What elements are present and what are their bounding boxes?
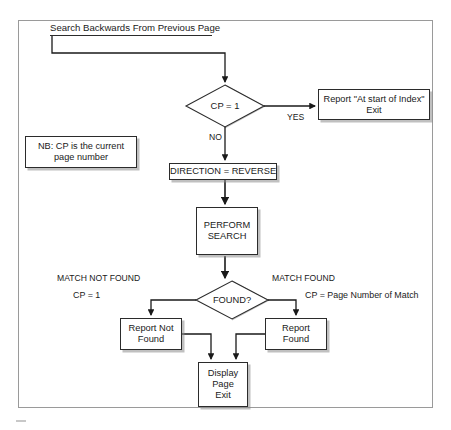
node-found-question: FOUND? [196, 281, 268, 319]
figure-canvas: Search Backwards From Previous Page CP =… [0, 0, 451, 430]
node-perform-search-line2: SEARCH [208, 231, 247, 242]
node-report-at-start-of-index: Report "At start of Index" Exit [318, 89, 430, 120]
start-underline [50, 35, 212, 36]
node-report-found: Report Found [265, 318, 327, 350]
node-report-found-line1: Report [282, 323, 310, 334]
node-perform-search: PERFORM SEARCH [196, 207, 258, 255]
note-line1: NB: CP is the current [38, 141, 124, 152]
node-cp-equals-1-label: CP = 1 [211, 100, 240, 111]
node-display-line1: Display [208, 368, 238, 379]
node-report-not-found-line1: Report Not [129, 323, 174, 334]
edge-label-cp-equals-1: CP = 1 [73, 291, 100, 301]
node-direction-reverse-label: DIRECTION = REVERSE [170, 166, 276, 177]
node-cp-equals-1: CP = 1 [186, 85, 264, 127]
node-display-line2: Page [212, 379, 234, 390]
edge-label-match-found: MATCH FOUND [272, 274, 335, 283]
node-found-question-label: FOUND? [213, 295, 251, 306]
node-note-cp-definition: NB: CP is the current page number [25, 136, 137, 168]
node-direction-reverse: DIRECTION = REVERSE [169, 163, 277, 180]
edge-label-cp-page-number-of-match: CP = Page Number of Match [305, 291, 419, 301]
node-perform-search-line1: PERFORM [204, 220, 251, 231]
note-line2: page number [54, 152, 108, 163]
node-report-not-found: Report Not Found [120, 318, 182, 350]
edge-label-match-not-found: MATCH NOT FOUND [57, 274, 140, 283]
node-start-header: Search Backwards From Previous Page [50, 22, 220, 33]
caption-marker [16, 420, 26, 422]
edge-label-no: NO [209, 133, 222, 142]
node-report-found-line2: Found [283, 334, 309, 345]
node-start-label: Search Backwards From Previous Page [50, 22, 220, 33]
edge-label-yes: YES [287, 113, 304, 122]
node-report-at-start-line1: Report "At start of Index" [324, 94, 425, 105]
node-report-not-found-line2: Found [138, 334, 164, 345]
node-display-page-exit: Display Page Exit [198, 362, 248, 407]
node-report-at-start-line2: Exit [366, 105, 381, 116]
node-display-line3: Exit [215, 390, 231, 401]
